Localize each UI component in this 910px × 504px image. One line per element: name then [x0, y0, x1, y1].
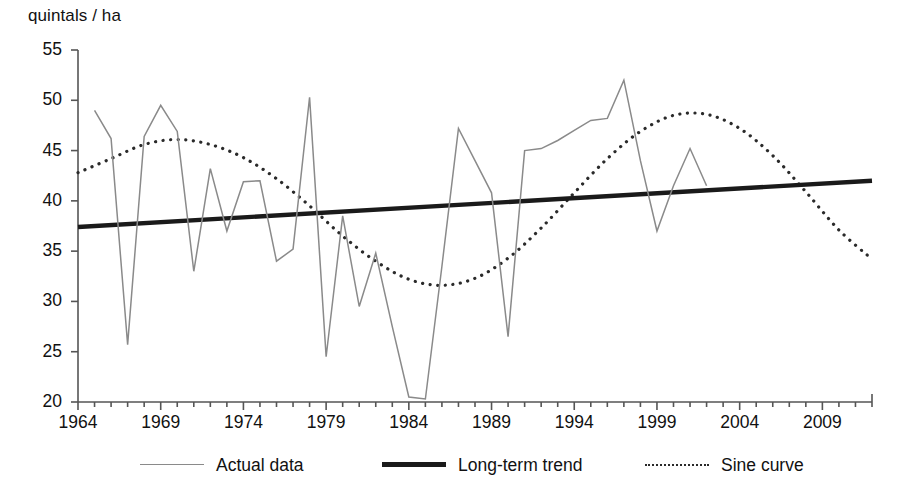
y-tick-label: 55: [22, 39, 62, 60]
legend-swatch-thin-line-icon: [140, 459, 204, 471]
legend-item-long-term-trend: Long-term trend: [382, 450, 583, 480]
x-tick-label: 1979: [296, 412, 356, 433]
legend-swatch-thick-line-icon: [382, 459, 446, 471]
legend-item-actual-data: Actual data: [140, 450, 304, 480]
x-tick-label: 2009: [792, 412, 852, 433]
y-tick-label: 40: [22, 190, 62, 211]
x-tick-label: 1984: [379, 412, 439, 433]
series-sine-curve: [78, 113, 872, 285]
x-tick-label: 1989: [462, 412, 522, 433]
y-tick-label: 50: [22, 89, 62, 110]
y-tick-label: 35: [22, 240, 62, 261]
y-tick-label: 20: [22, 391, 62, 412]
series-actual-data: [95, 80, 707, 399]
x-tick-label: 1999: [627, 412, 687, 433]
legend-label-long-term-trend: Long-term trend: [458, 455, 583, 476]
x-tick-label: 1994: [544, 412, 604, 433]
legend-item-sine-curve: Sine curve: [645, 450, 804, 480]
x-tick-label: 2004: [710, 412, 770, 433]
x-tick-label: 1964: [48, 412, 108, 433]
series-long-term-trend: [78, 181, 872, 227]
y-axis-title: quintals / ha: [28, 6, 121, 26]
y-tick-label: 45: [22, 140, 62, 161]
legend-label-sine-curve: Sine curve: [721, 455, 804, 476]
y-tick-label: 25: [22, 341, 62, 362]
x-tick-label: 1974: [213, 412, 273, 433]
legend-label-actual-data: Actual data: [216, 455, 304, 476]
x-tick-label: 1969: [131, 412, 191, 433]
chart-figure: quintals / ha 2025303540455055 196419691…: [0, 0, 910, 504]
chart-legend: Actual data Long-term trend Sine curve: [0, 450, 910, 494]
y-tick-label: 30: [22, 290, 62, 311]
legend-swatch-dotted-line-icon: [645, 459, 709, 471]
